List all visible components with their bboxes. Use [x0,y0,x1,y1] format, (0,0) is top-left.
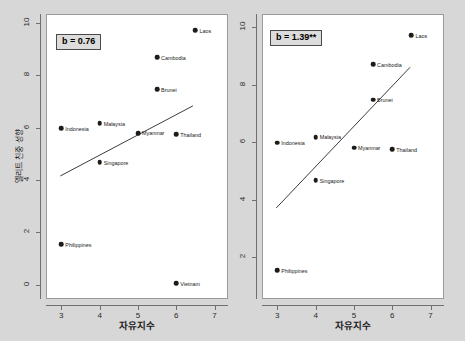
plot-area-right [262,14,444,299]
annotation-slope-right: b = 1.39** [270,30,322,46]
y-axis-tick-label: 6 [23,120,31,134]
data-point [313,178,318,183]
y-axis-tick-label: 2 [23,224,31,238]
y-axis-tick-label: 2 [239,249,247,263]
y-axis-tick-label: 10 [23,15,31,29]
x-axis-title-left: 자유지수 [46,321,228,331]
data-point [59,126,64,131]
data-point-label: Brunei [161,88,177,93]
data-point-label: Indonesia [65,127,88,132]
x-axis-title-right: 자유지수 [262,321,444,331]
data-point-label: Philippines [65,243,91,248]
data-point-label: Singapore [320,179,345,184]
x-axis-tick [354,306,355,310]
data-point-label: Thailand [396,148,417,153]
x-axis-tick-label: 6 [382,312,402,320]
y-axis-tick [36,180,40,181]
data-point-label: Brunei [377,98,393,103]
data-point [352,146,357,151]
y-axis-tick [36,23,40,24]
data-point [155,87,160,92]
x-axis-tick [215,306,216,310]
y-axis-title-left: 엘리트 친중 성향 [16,96,24,216]
y-axis-line [40,14,41,299]
y-axis-tick-label: 8 [239,77,247,91]
data-point [174,132,179,137]
x-axis-tick-label: 3 [51,312,71,320]
y-axis-tick-label: 4 [23,172,31,186]
y-axis-tick [252,257,256,258]
fit-line-right [263,15,443,298]
y-axis-tick [252,27,256,28]
data-point-label: Malaysia [104,122,125,127]
x-axis-tick [277,306,278,310]
data-point [275,140,280,145]
x-axis-tick-label: 7 [421,312,441,320]
data-point [390,147,395,152]
y-axis-tick [36,285,40,286]
x-axis-tick-label: 6 [166,312,186,320]
plot-area-left [46,14,228,299]
annotation-slope-left: b = 0.76 [56,34,101,50]
x-axis-tick-label: 4 [306,312,326,320]
data-point-label: Myanmar [358,147,380,152]
fit-line-left [47,15,227,298]
x-axis-tick-label: 5 [344,312,364,320]
data-point-label: Thailand [180,133,201,138]
y-axis-tick [252,200,256,201]
x-axis-tick [100,306,101,310]
y-axis-line [256,14,257,299]
x-axis-tick [176,306,177,310]
y-axis-tick [36,75,40,76]
panel-left: b = 0.76 엘리트 친중 성향 자유지수 024681034567Indo… [0,0,238,341]
scatter-plot-figure: b = 0.76 엘리트 친중 성향 자유지수 024681034567Indo… [0,0,465,341]
data-point-label: Laos [415,34,427,39]
data-point [59,242,64,247]
x-axis-tick-label: 5 [128,312,148,320]
y-axis-tick-label: 4 [239,192,247,206]
x-axis-tick [392,306,393,310]
data-point [409,33,414,38]
data-point-label: Indonesia [281,141,304,146]
y-axis-tick [252,142,256,143]
y-axis-tick [36,232,40,233]
data-point [155,55,160,60]
data-point [97,160,102,165]
data-point-label: Myanmar [142,132,164,137]
data-point-label: Vietnam [180,282,200,287]
data-point [174,281,179,286]
data-point [371,97,376,102]
x-axis-tick [138,306,139,310]
data-point-label: Singapore [104,161,129,166]
x-axis-tick-label: 4 [90,312,110,320]
x-axis-tick [61,306,62,310]
x-axis-tick-label: 7 [205,312,225,320]
data-point-label: Philippines [281,269,307,274]
data-point-label: Malaysia [320,136,341,141]
y-axis-tick-label: 6 [239,134,247,148]
data-point [97,121,102,126]
y-axis-tick-label: 10 [239,19,247,33]
y-axis-tick [252,85,256,86]
data-point-label: Laos [199,29,211,34]
data-point [136,131,141,136]
data-point-label: Cambodia [161,56,186,61]
y-axis-tick [36,128,40,129]
y-axis-tick-label: 8 [23,67,31,81]
data-point-label: Cambodia [377,63,402,68]
data-point [313,135,318,140]
panel-right: b = 1.39** 자유지수 24681034567IndonesiaPhil… [238,0,465,341]
y-axis-tick-label: 0 [23,277,31,291]
x-axis-tick [316,306,317,310]
x-axis-tick-label: 3 [267,312,287,320]
data-point [371,62,376,67]
data-point [275,268,280,273]
x-axis-tick [431,306,432,310]
data-point [193,28,198,33]
